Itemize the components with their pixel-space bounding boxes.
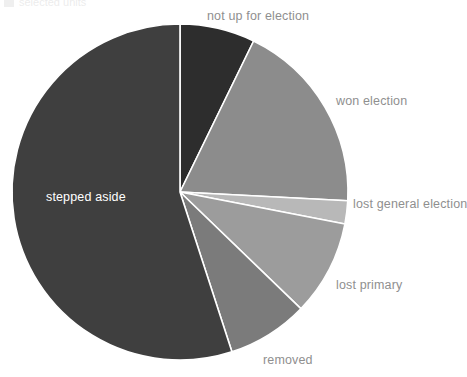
slice-label-won-election: won election [336, 95, 407, 108]
slice-label-lost-general-election: lost general election [353, 198, 467, 211]
slice-label-removed: removed [263, 354, 313, 367]
slice-label-lost-primary: lost primary [336, 279, 402, 292]
slice-label-stepped-aside: stepped aside [46, 191, 126, 204]
slice-label-not-up-for-election: not up for election [207, 10, 309, 23]
